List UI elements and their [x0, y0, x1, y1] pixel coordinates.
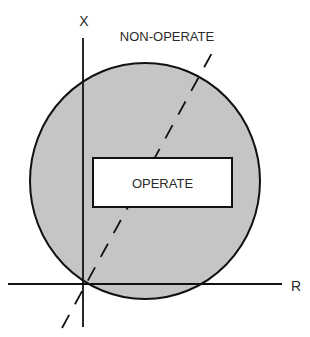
non-operate-label: NON-OPERATE [120, 29, 215, 44]
r-axis-label: R [291, 278, 301, 294]
x-axis-label: X [79, 13, 89, 29]
operating-characteristic-diagram: OPERATE NON-OPERATE X R [0, 0, 310, 337]
operate-label: OPERATE [132, 176, 193, 191]
